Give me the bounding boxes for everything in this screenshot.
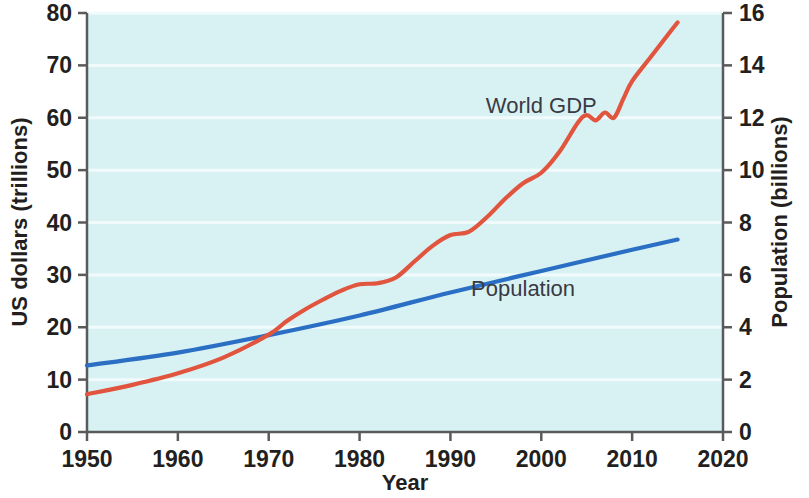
left-axis-tick-label: 50 xyxy=(46,157,72,183)
right-axis-ticks xyxy=(723,13,732,432)
world-gdp-series-label: World GDP xyxy=(486,93,597,118)
left-axis-tick-labels: 01020304050607080 xyxy=(46,0,72,445)
chart-container: 01020304050607080 0246810121416 19501960… xyxy=(0,0,809,498)
right-axis-tick-label: 16 xyxy=(739,0,765,26)
left-axis-tick-label: 10 xyxy=(46,367,72,393)
x-axis-title: Year xyxy=(382,470,429,495)
left-axis-tick-label: 30 xyxy=(46,262,72,288)
x-axis-tick-label: 2000 xyxy=(516,446,567,472)
x-axis-tick-label: 1990 xyxy=(425,446,476,472)
left-axis-tick-label: 20 xyxy=(46,314,72,340)
x-axis-tick-label: 1970 xyxy=(243,446,294,472)
x-axis-tick-label: 2020 xyxy=(697,446,748,472)
left-axis-ticks xyxy=(78,13,87,432)
x-axis-tick-label: 1960 xyxy=(152,446,203,472)
right-axis-tick-label: 0 xyxy=(739,419,752,445)
x-axis-tick-label: 1950 xyxy=(61,446,112,472)
world-gdp-population-line-chart: 01020304050607080 0246810121416 19501960… xyxy=(0,0,809,498)
bottom-axis-ticks xyxy=(87,432,723,441)
right-axis-tick-label: 4 xyxy=(739,314,752,340)
right-axis-tick-label: 6 xyxy=(739,262,752,288)
right-axis-tick-label: 12 xyxy=(739,105,765,131)
left-axis-tick-label: 70 xyxy=(46,52,72,78)
x-axis-tick-label: 2010 xyxy=(607,446,658,472)
x-axis-tick-label: 1980 xyxy=(334,446,385,472)
left-axis-tick-label: 40 xyxy=(46,210,72,236)
left-axis-tick-label: 80 xyxy=(46,0,72,26)
y-left-axis-title: US dollars (trillions) xyxy=(7,117,32,326)
right-axis-tick-label: 2 xyxy=(739,367,752,393)
left-axis-tick-label: 60 xyxy=(46,105,72,131)
right-axis-tick-label: 8 xyxy=(739,210,752,236)
left-axis-tick-label: 0 xyxy=(59,419,72,445)
population-series-label: Population xyxy=(471,276,575,301)
right-axis-tick-labels: 0246810121416 xyxy=(739,0,765,445)
right-axis-tick-label: 10 xyxy=(739,157,765,183)
right-axis-tick-label: 14 xyxy=(739,52,765,78)
y-right-axis-title: Population (billions) xyxy=(767,116,792,327)
bottom-axis-tick-labels: 19501960197019801990200020102020 xyxy=(61,446,748,472)
